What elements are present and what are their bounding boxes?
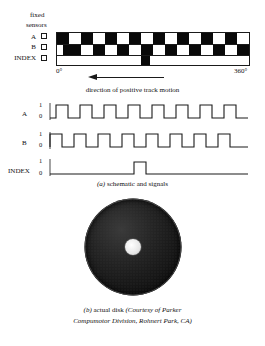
- caption-b-credit-line1: (Courtesy of Parker: [125, 306, 181, 314]
- caption-part-b-line1: (b) actual disk (Courtesy of Parker: [0, 306, 265, 315]
- sensor-label-b: B: [0, 43, 36, 51]
- waveform-index-high-tick: 1: [39, 157, 42, 164]
- waveform-a: [47, 101, 250, 119]
- waveform-b-low-tick: 0: [39, 141, 42, 148]
- caption-b-marker: (b): [84, 306, 92, 314]
- caption-a-marker: (a): [97, 180, 105, 188]
- fixed-sensors-label-line2: sensors: [26, 21, 47, 29]
- disk-center-hole: [125, 239, 141, 255]
- caption-b-text: actual disk: [92, 306, 126, 314]
- waveform-label-a: A: [22, 110, 27, 118]
- caption-part-b-line2: Compumotor Division, Rohnert Park, CA): [0, 317, 265, 326]
- track-divider-a-b: [57, 44, 249, 45]
- waveform-index-low-tick: 0: [39, 169, 42, 176]
- waveform-a-high-tick: 1: [39, 101, 42, 108]
- waveform-a-low-tick: 0: [39, 112, 42, 119]
- caption-b-credit-line2: Compumotor Division, Rohnert Park, CA): [73, 317, 192, 325]
- axis-label-end: 360°: [234, 67, 247, 75]
- waveform-label-b: B: [22, 139, 27, 147]
- actual-disk-photo: [60, 197, 205, 297]
- caption-a-text: schematic and signals: [105, 180, 168, 188]
- sensor-label-a: A: [0, 33, 36, 41]
- track-a: [57, 33, 249, 44]
- sensor-label-index: INDEX: [0, 54, 36, 62]
- direction-of-motion-label: direction of positive track motion: [0, 86, 265, 94]
- track-b: [57, 44, 249, 55]
- sensor-box-a: [41, 33, 47, 39]
- waveform-b-high-tick: 1: [39, 130, 42, 137]
- waveform-index: [47, 157, 250, 175]
- caption-part-a: (a) schematic and signals: [0, 180, 265, 189]
- figure-optical-encoder: fixed sensors A B INDEX: [0, 0, 265, 346]
- encoder-track-strip: [56, 32, 250, 66]
- fixed-sensors-label-line1: fixed: [30, 11, 44, 19]
- sensor-box-b: [41, 44, 47, 50]
- waveform-label-index: INDEX: [8, 167, 30, 175]
- waveform-b: [47, 130, 250, 148]
- direction-arrow-icon: [88, 74, 164, 81]
- track-divider-b-index: [57, 55, 249, 56]
- axis-label-start: 0°: [56, 67, 62, 75]
- track-index: [57, 55, 249, 65]
- sensor-box-index: [41, 55, 47, 61]
